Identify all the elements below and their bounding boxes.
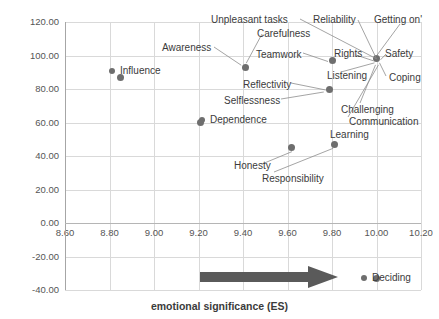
- y-axis-tick-label: -20.00: [3, 251, 59, 262]
- data-label-rights: Rights: [334, 48, 362, 59]
- data-point-marker: [288, 144, 295, 151]
- y-axis-line: [65, 22, 66, 290]
- data-label-carefulness: Carefulness: [257, 28, 310, 39]
- data-label-dependence: Dependence: [210, 114, 267, 125]
- gridline-vertical: [288, 22, 289, 290]
- x-axis-tick-label: 9.40: [221, 227, 265, 238]
- data-label-communication: Communication: [349, 116, 418, 127]
- data-label-selflessness: Selflessness: [224, 95, 280, 106]
- trend-arrow-icon: [200, 266, 340, 290]
- data-label-unpleasant-tasks: Unpleasant tasks: [211, 14, 288, 25]
- x-axis-tick-label: 9.20: [177, 227, 221, 238]
- y-axis-tick-label: 100.00: [3, 50, 59, 61]
- gridline-vertical: [421, 22, 422, 290]
- x-axis-title: emotional significance (ES): [0, 300, 439, 312]
- x-axis-line: [65, 223, 421, 224]
- data-label-learning: Learning: [330, 129, 369, 140]
- data-label-honesty: Honesty: [234, 160, 271, 171]
- data-label-influence: Influence: [120, 65, 161, 76]
- x-axis-tick-label: 9.80: [310, 227, 354, 238]
- data-label-challenging: Challenging: [341, 104, 394, 115]
- data-label-awareness: Awareness: [162, 42, 211, 53]
- data-point-marker: [242, 64, 249, 71]
- plot-area: 120.00100.0080.0060.0040.0020.000.00-20.…: [65, 22, 421, 290]
- y-axis-tick-label: -40.00: [3, 284, 59, 295]
- influence-marker-icon: [109, 68, 115, 74]
- data-label-coping: Coping: [389, 72, 421, 83]
- data-label-listening: Listening: [327, 70, 367, 81]
- scatter-chart: 120.00100.0080.0060.0040.0020.000.00-20.…: [0, 0, 439, 319]
- data-point-marker: [326, 86, 333, 93]
- gridline-vertical: [377, 22, 378, 290]
- data-label-teamwork: Teamwork: [256, 49, 302, 60]
- data-label-safety: Safety: [385, 48, 413, 59]
- data-label-deciding: Deciding: [372, 272, 411, 283]
- gridline-vertical: [110, 22, 111, 290]
- data-label-getting-on: Getting on': [374, 14, 422, 25]
- gridline-vertical: [154, 22, 155, 290]
- x-axis-tick-label: 9.00: [132, 227, 176, 238]
- deciding-marker-icon: [361, 275, 367, 281]
- data-point-marker: [331, 141, 338, 148]
- x-axis-tick-label: 10.00: [355, 227, 399, 238]
- x-axis-tick-label: 9.60: [266, 227, 310, 238]
- gridline-vertical: [199, 22, 200, 290]
- y-axis-tick-label: 40.00: [3, 150, 59, 161]
- x-axis-tick-label: 10.20: [399, 227, 439, 238]
- gridline-vertical: [243, 22, 244, 290]
- data-label-influence-group: Influence: [109, 65, 161, 76]
- data-label-dependence-group: Dependence: [199, 114, 267, 125]
- y-axis-tick-label: 60.00: [3, 117, 59, 128]
- x-axis-tick-label: 8.80: [88, 227, 132, 238]
- gridline-horizontal: [65, 290, 421, 291]
- dependence-marker-icon: [199, 117, 205, 123]
- y-axis-tick-label: 80.00: [3, 83, 59, 94]
- data-label-reflectivity: Reflectivity: [243, 79, 291, 90]
- data-label-responsibility: Responsibility: [262, 173, 324, 184]
- data-label-reliability: Reliability: [313, 14, 356, 25]
- data-point-marker: [373, 55, 380, 62]
- y-axis-tick-label: 120.00: [3, 16, 59, 27]
- data-label-deciding-group: Deciding: [361, 272, 411, 283]
- y-axis-tick-label: 20.00: [3, 184, 59, 195]
